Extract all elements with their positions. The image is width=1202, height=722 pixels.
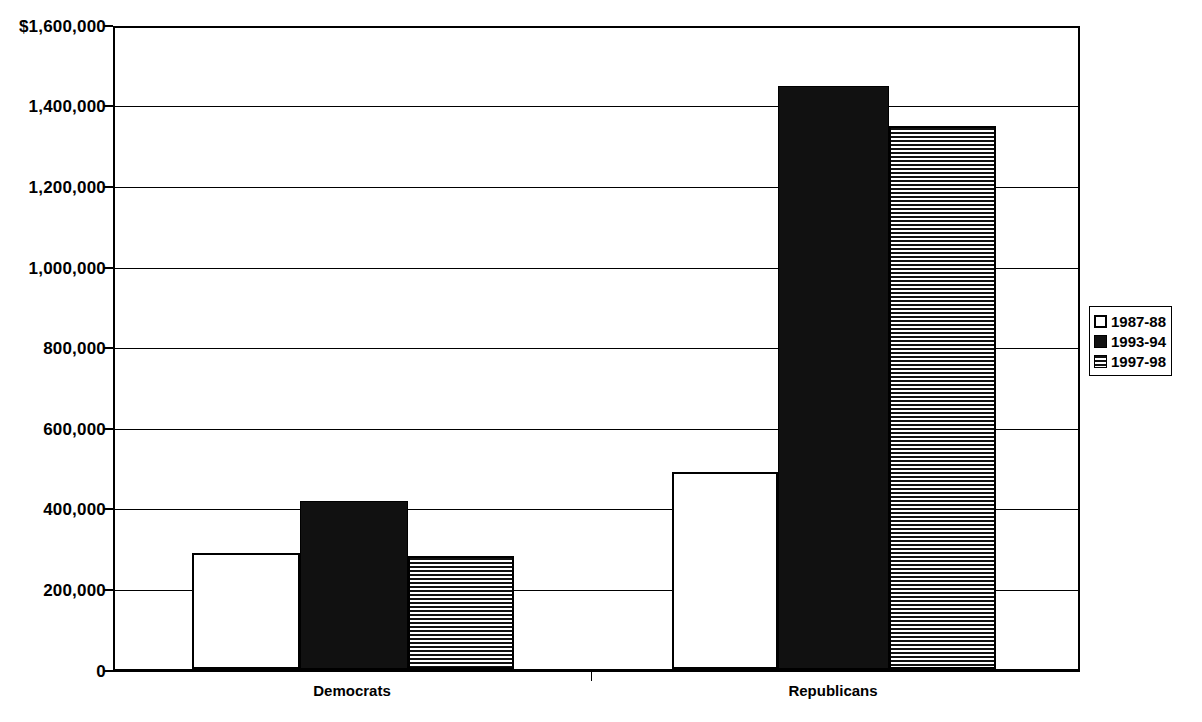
legend-item: 1993-94 (1094, 331, 1166, 351)
y-tick-label: 1,200,000 (29, 179, 106, 196)
bar-republicans-1987-88 (672, 472, 778, 669)
y-tick-label: 600,000 (43, 421, 106, 438)
gridline (115, 106, 1078, 107)
y-tick-label: 800,000 (43, 340, 106, 357)
x-axis-line (113, 670, 1080, 672)
bar-chart: $1,600,000 1,400,000 1,200,000 1,000,000… (0, 0, 1202, 722)
legend-item-label: 1997-98 (1111, 354, 1166, 369)
x-axis-group-separator-tick (591, 672, 592, 681)
legend-item: 1997-98 (1094, 351, 1166, 371)
y-tick-mark (104, 267, 113, 269)
bar-democrats-1987-88 (192, 553, 300, 669)
legend-item-label: 1993-94 (1111, 334, 1166, 349)
y-tick-mark (104, 186, 113, 188)
x-axis-label-democrats: Democrats (313, 682, 391, 699)
bar-democrats-1997-98 (408, 556, 514, 669)
y-tick-mark (104, 347, 113, 349)
bar-democrats-1993-94 (300, 501, 408, 669)
y-tick-mark (104, 589, 113, 591)
legend-item-label: 1987-88 (1111, 314, 1166, 329)
legend-swatch-icon (1094, 315, 1107, 328)
y-tick-mark (104, 670, 113, 672)
y-tick-label: 200,000 (43, 582, 106, 599)
y-tick-mark (104, 428, 113, 430)
plot-area (113, 26, 1080, 671)
y-tick-label: 400,000 (43, 501, 106, 518)
y-tick-label: 1,400,000 (29, 98, 106, 115)
y-tick-label: $1,600,000 (19, 18, 106, 35)
y-tick-mark (104, 105, 113, 107)
y-tick-label: 1,000,000 (29, 260, 106, 277)
legend-item: 1987-88 (1094, 311, 1166, 331)
legend-swatch-icon (1094, 335, 1107, 348)
legend-swatch-icon (1094, 355, 1107, 368)
bar-republicans-1997-98 (889, 126, 996, 669)
bar-republicans-1993-94 (778, 86, 889, 669)
y-tick-mark (104, 25, 113, 27)
y-tick-mark (104, 508, 113, 510)
legend: 1987-88 1993-94 1997-98 (1089, 306, 1172, 376)
x-axis-label-republicans: Republicans (788, 682, 877, 699)
